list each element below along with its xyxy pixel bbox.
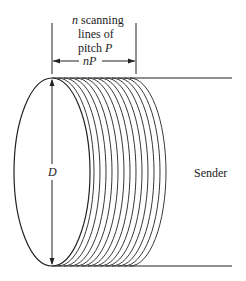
np-dimension-label: nP (82, 55, 97, 68)
scanning-lines (58, 78, 166, 266)
scan-lines-label-line2: lines of (78, 28, 114, 41)
scan-lines-label-line1: n scanning (72, 14, 124, 27)
diameter-label: D (48, 166, 57, 179)
scanning-cylinder-diagram (0, 0, 246, 281)
p-variable: P (105, 41, 112, 55)
sender-label: Sender (194, 167, 227, 180)
